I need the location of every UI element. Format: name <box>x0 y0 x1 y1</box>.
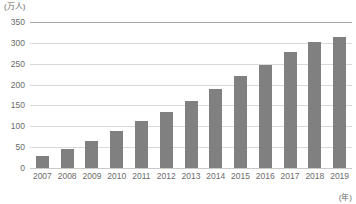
bar <box>61 149 74 168</box>
x-tick-label: 2019 <box>330 171 349 181</box>
y-tick-label: 350 <box>11 18 25 27</box>
y-tick-label: 0 <box>20 164 25 173</box>
bar-series <box>30 22 352 168</box>
x-tick-label: 2009 <box>82 171 101 181</box>
bar <box>284 52 297 168</box>
bar <box>308 42 321 168</box>
bar <box>135 121 148 168</box>
bar <box>259 65 272 168</box>
bar <box>333 37 346 168</box>
x-tick-label: 2018 <box>305 171 324 181</box>
bar <box>110 131 123 168</box>
x-axis-tick-labels: 2007200820092010201120122013201420152016… <box>30 171 352 185</box>
bar <box>209 89 222 168</box>
y-axis-tick-labels: 050100150200250300350 <box>0 22 28 168</box>
y-tick-label: 250 <box>11 59 25 68</box>
x-tick-label: 2013 <box>182 171 201 181</box>
y-tick-label: 300 <box>11 38 25 47</box>
y-tick-label: 200 <box>11 80 25 89</box>
bar <box>160 112 173 168</box>
bar-chart: (万人) 050100150200250300350 2007200820092… <box>0 0 356 204</box>
x-tick-label: 2017 <box>281 171 300 181</box>
x-tick-label: 2015 <box>231 171 250 181</box>
bar <box>234 76 247 168</box>
x-tick-label: 2011 <box>132 171 150 181</box>
x-tick-label: 2016 <box>256 171 275 181</box>
bar <box>185 101 198 168</box>
gridline-0 <box>30 168 352 169</box>
x-axis-unit-label: (年) <box>339 193 352 203</box>
y-tick-label: 100 <box>11 122 25 131</box>
y-tick-label: 50 <box>16 143 25 152</box>
x-tick-label: 2007 <box>33 171 52 181</box>
y-tick-label: 150 <box>11 101 25 110</box>
x-tick-label: 2014 <box>206 171 225 181</box>
bar <box>85 141 98 168</box>
x-tick-label: 2010 <box>107 171 126 181</box>
x-tick-label: 2012 <box>157 171 176 181</box>
bar <box>36 156 49 169</box>
y-axis-unit-label: (万人) <box>4 2 25 12</box>
plot-area <box>30 22 352 168</box>
x-tick-label: 2008 <box>58 171 77 181</box>
